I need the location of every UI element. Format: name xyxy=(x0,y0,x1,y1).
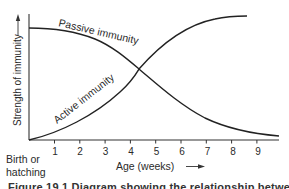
origin-label-line2: hatching xyxy=(6,166,46,178)
y-axis-label: Strength of immunity xyxy=(12,34,23,126)
active-immunity-label: Active immunity xyxy=(51,70,117,125)
svg-text:5: 5 xyxy=(154,146,160,157)
svg-text:6: 6 xyxy=(179,146,185,157)
origin-label-line1: Birth or xyxy=(6,153,40,165)
y-axis-label-group: Strength of immunity xyxy=(12,14,23,126)
svg-text:1: 1 xyxy=(52,146,58,157)
x-axis-label-group: Age (weeks) xyxy=(116,160,205,172)
passive-immunity-curve xyxy=(29,28,279,136)
svg-text:4: 4 xyxy=(128,146,134,157)
figure-caption: Figure 19.1 Diagram showing the relation… xyxy=(8,181,289,189)
svg-text:2: 2 xyxy=(77,146,83,157)
svg-text:7: 7 xyxy=(205,146,211,157)
x-tick-labels: 1 2 3 4 5 6 7 8 9 xyxy=(52,146,261,157)
x-axis-label: Age (weeks) xyxy=(116,160,174,172)
svg-text:3: 3 xyxy=(103,146,109,157)
y-arrow-icon xyxy=(16,14,20,21)
x-arrow-icon xyxy=(198,164,205,168)
svg-text:8: 8 xyxy=(230,146,236,157)
immunity-chart: 1 2 3 4 5 6 7 8 9 Passive immunity Activ… xyxy=(0,0,289,189)
svg-text:9: 9 xyxy=(255,146,261,157)
